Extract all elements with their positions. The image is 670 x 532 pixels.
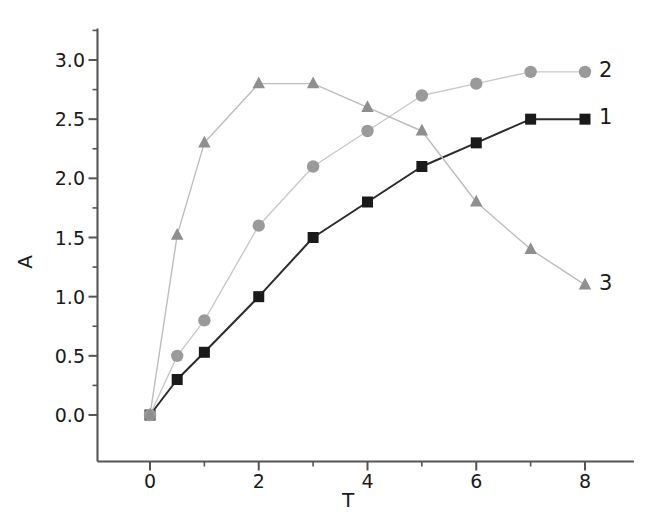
data-point-square xyxy=(253,291,264,302)
x-tick-0: 0 xyxy=(144,470,156,492)
data-point-triangle xyxy=(524,242,537,254)
data-point-circle xyxy=(307,160,319,172)
axes xyxy=(89,28,634,470)
data-point-circle xyxy=(361,125,373,137)
y-tick-1.5: 1.5 xyxy=(30,227,85,249)
data-point-square xyxy=(362,197,373,208)
x-tick-4: 4 xyxy=(361,470,373,492)
chart-figure: A T 0.00.51.01.52.02.53.0 02468 123 xyxy=(0,0,670,532)
data-point-circle xyxy=(524,66,536,78)
data-point-circle xyxy=(253,219,265,231)
data-point-square xyxy=(471,137,482,148)
data-point-triangle xyxy=(579,278,592,290)
data-point-circle xyxy=(470,77,482,89)
data-series-group xyxy=(144,66,592,422)
data-point-triangle xyxy=(253,77,266,89)
data-point-circle xyxy=(198,314,210,326)
data-point-square xyxy=(308,232,319,243)
x-axis-title: T xyxy=(342,488,354,512)
data-point-square xyxy=(525,114,536,125)
series-label-1: 1 xyxy=(599,105,612,129)
y-tick-0.0: 0.0 xyxy=(30,404,85,426)
y-tick-3.0: 3.0 xyxy=(30,49,85,71)
y-tick-0.5: 0.5 xyxy=(30,345,85,367)
series-1 xyxy=(145,114,591,421)
data-point-square xyxy=(580,114,591,125)
y-tick-2.5: 2.5 xyxy=(30,108,85,130)
plot-area xyxy=(0,0,670,532)
data-point-square xyxy=(172,374,183,385)
data-point-circle xyxy=(416,89,428,101)
data-point-square xyxy=(416,161,427,172)
x-tick-2: 2 xyxy=(253,470,265,492)
x-tick-8: 8 xyxy=(579,470,591,492)
data-point-triangle xyxy=(307,77,320,89)
series-label-3: 3 xyxy=(599,271,612,295)
data-point-circle xyxy=(579,66,591,78)
data-point-circle xyxy=(171,350,183,362)
data-point-square xyxy=(199,347,210,358)
y-tick-2.0: 2.0 xyxy=(30,167,85,189)
series-label-2: 2 xyxy=(599,58,612,82)
x-tick-6: 6 xyxy=(470,470,482,492)
y-axis-title: A xyxy=(13,255,37,269)
series-line-1 xyxy=(150,119,585,415)
y-tick-1.0: 1.0 xyxy=(30,286,85,308)
data-point-triangle xyxy=(171,228,184,240)
